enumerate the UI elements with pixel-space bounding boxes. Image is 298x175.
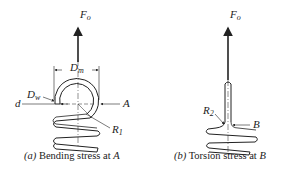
- mean-diameter-label: Dm: [70, 62, 84, 75]
- figure-b-torsion: [206, 28, 257, 155]
- wire-diameter-label: Dw: [27, 89, 40, 102]
- force-label-b: Fo: [230, 9, 241, 22]
- caption-a: (a) Bending stress at A: [24, 151, 120, 162]
- force-label-a: Fo: [80, 9, 91, 22]
- spring-diagram: [0, 0, 298, 175]
- point-a-label: A: [123, 98, 130, 109]
- radius-r1-label: R1: [112, 124, 123, 137]
- radius-r2-label: R2: [203, 105, 214, 118]
- d-label: d: [15, 98, 21, 109]
- point-b-label: B: [253, 119, 260, 130]
- caption-b: (b) Torsion stress at B: [174, 151, 266, 162]
